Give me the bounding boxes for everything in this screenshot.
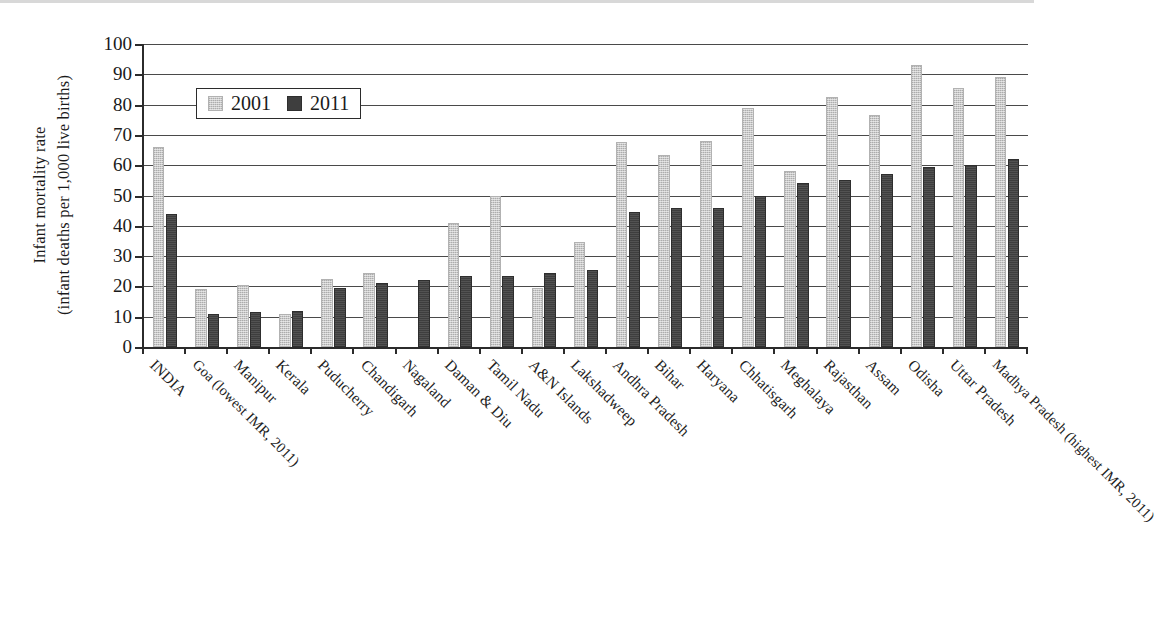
x-axis-tick-labels: INDIAGoa (lowest IMR, 2011)ManipurKerala…	[142, 352, 1026, 612]
bar-group[interactable]	[565, 44, 607, 347]
y-tick-mark	[135, 105, 144, 107]
bar-group[interactable]	[439, 44, 481, 347]
legend-label-2011: 2011	[310, 93, 349, 113]
bar-2011[interactable]	[881, 174, 893, 347]
x-tick-label: Odisha	[904, 356, 948, 400]
bar-2011[interactable]	[418, 280, 430, 347]
y-tick-label: 80	[82, 94, 132, 116]
bar-2001[interactable]	[532, 288, 544, 347]
bar-2001[interactable]	[279, 314, 291, 347]
legend-item-2011: 2011	[287, 93, 349, 113]
chart-legend: 2001 2011	[196, 88, 361, 119]
y-tick-label: 70	[82, 124, 132, 146]
y-tick-label: 30	[82, 245, 132, 267]
bar-2011[interactable]	[629, 212, 641, 347]
y-tick-label: 50	[82, 185, 132, 207]
bar-2001[interactable]	[490, 196, 502, 348]
y-tick-mark	[135, 44, 144, 46]
y-tick-label: 10	[82, 306, 132, 328]
bar-2011[interactable]	[671, 208, 683, 347]
y-tick-mark	[135, 165, 144, 167]
y-tick-label: 0	[82, 336, 132, 358]
y-tick-mark	[135, 74, 144, 76]
y-axis-title: Infant mortality rate (infant deaths per…	[22, 40, 82, 350]
bar-group[interactable]	[481, 44, 523, 347]
bar-group[interactable]	[944, 44, 986, 347]
bar-group[interactable]	[986, 44, 1028, 347]
bar-2001[interactable]	[321, 279, 333, 347]
y-tick-label: 90	[82, 63, 132, 85]
bar-2011[interactable]	[587, 270, 599, 347]
bar-2011[interactable]	[250, 312, 262, 347]
y-tick-label: 40	[82, 215, 132, 237]
legend-label-2001: 2001	[231, 93, 271, 113]
bar-2011[interactable]	[755, 196, 767, 348]
bar-2001[interactable]	[700, 141, 712, 347]
y-tick-mark	[135, 286, 144, 288]
bar-2011[interactable]	[166, 214, 178, 347]
y-tick-label: 60	[82, 154, 132, 176]
y-axis-title-line-1: Infant mortality rate	[28, 75, 52, 315]
bar-2011[interactable]	[502, 276, 514, 347]
bar-2011[interactable]	[292, 311, 304, 347]
bar-2001[interactable]	[784, 171, 796, 347]
y-tick-mark	[135, 317, 144, 319]
bar-2001[interactable]	[237, 285, 249, 347]
bar-group[interactable]	[144, 44, 186, 347]
bar-2011[interactable]	[797, 183, 809, 347]
y-tick-mark	[135, 196, 144, 198]
y-tick-label: 100	[82, 33, 132, 55]
bar-2001[interactable]	[911, 65, 923, 347]
bar-group[interactable]	[733, 44, 775, 347]
bar-2001[interactable]	[742, 108, 754, 347]
bar-2011[interactable]	[965, 165, 977, 347]
bar-2011[interactable]	[923, 167, 935, 347]
bar-2001[interactable]	[616, 142, 628, 347]
bar-group[interactable]	[860, 44, 902, 347]
x-tick-mark	[1026, 347, 1028, 354]
bar-group[interactable]	[902, 44, 944, 347]
bar-2011[interactable]	[1008, 159, 1020, 347]
bar-group[interactable]	[691, 44, 733, 347]
bar-2001[interactable]	[869, 115, 881, 347]
y-tick-mark	[135, 226, 144, 228]
bar-2001[interactable]	[658, 155, 670, 347]
bar-2001[interactable]	[195, 289, 207, 347]
y-tick-label: 20	[82, 275, 132, 297]
bar-2001[interactable]	[995, 77, 1007, 347]
bar-group[interactable]	[818, 44, 860, 347]
bar-group[interactable]	[397, 44, 439, 347]
legend-item-2001: 2001	[208, 93, 271, 113]
bar-2001[interactable]	[448, 223, 460, 347]
bar-2001[interactable]	[953, 88, 965, 347]
bar-2011[interactable]	[334, 288, 346, 347]
bar-2001[interactable]	[826, 97, 838, 347]
top-rule	[0, 0, 1034, 3]
bar-2001[interactable]	[153, 147, 165, 347]
y-tick-mark	[135, 256, 144, 258]
light-grey-swatch-icon	[208, 96, 223, 111]
y-axis-title-line-2: (infant deaths per 1,000 live births)	[52, 75, 76, 315]
dark-grey-swatch-icon	[287, 96, 302, 111]
x-tick-label: INDIA	[146, 356, 190, 400]
bar-2001[interactable]	[574, 242, 586, 347]
bar-group[interactable]	[649, 44, 691, 347]
bar-group[interactable]	[523, 44, 565, 347]
x-tick-label: Madhya Pradesh (highest IMR, 2011)	[989, 356, 1158, 525]
bar-2001[interactable]	[363, 273, 375, 347]
bar-2011[interactable]	[839, 180, 851, 347]
bar-group[interactable]	[775, 44, 817, 347]
bar-2011[interactable]	[544, 273, 556, 347]
bar-group[interactable]	[607, 44, 649, 347]
bar-2011[interactable]	[376, 283, 388, 347]
bar-2011[interactable]	[460, 276, 472, 347]
bar-2011[interactable]	[208, 314, 220, 347]
x-tick-label: Haryana	[694, 356, 744, 406]
y-tick-mark	[135, 135, 144, 137]
x-tick-label: Bihar	[651, 356, 688, 393]
bar-2011[interactable]	[713, 208, 725, 347]
